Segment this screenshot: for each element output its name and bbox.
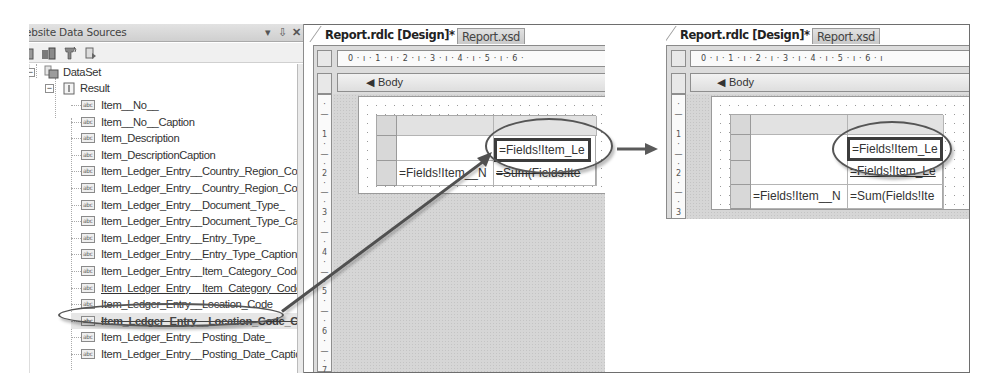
- ruler-tick: ·: [318, 259, 331, 267]
- tablix-cell[interactable]: =Sum(Fields!Ite: [848, 185, 944, 209]
- tree-line: [71, 188, 81, 189]
- row-handle[interactable]: [731, 185, 751, 209]
- tree-field-item[interactable]: abc Item_Ledger_Entry__Posting_Date_Capt…: [71, 346, 304, 362]
- tree-field-item[interactable]: abc Item__No__Caption: [71, 114, 304, 130]
- tab-report-xsd[interactable]: Report.xsd: [457, 28, 525, 44]
- tablix-cell[interactable]: [397, 116, 494, 136]
- row-handle[interactable]: [377, 116, 397, 136]
- text-field-icon: abc: [81, 216, 95, 226]
- text-field-icon: abc: [81, 133, 95, 143]
- ruler-tick: —: [672, 189, 685, 197]
- body-section-header[interactable]: ◀ Body: [690, 73, 969, 92]
- ruler-tick: 3: [318, 209, 331, 217]
- ruler-tick: ·: [318, 338, 331, 346]
- tree-field-item[interactable]: abc Item_Description: [71, 130, 304, 146]
- ruler-tick: —: [318, 189, 331, 197]
- tree-line: [36, 64, 37, 78]
- close-icon[interactable]: ✕: [289, 25, 303, 40]
- ruler-tick: 7: [318, 367, 331, 372]
- tree-line: [71, 138, 81, 139]
- tree-node-label: Result: [80, 80, 110, 96]
- auto-hide-pin-icon[interactable]: ⇩: [275, 25, 289, 40]
- ruler-tick: ·: [672, 141, 685, 149]
- tree-field-item[interactable]: abc Item_Ledger_Entry__Country_Region_Co: [71, 180, 304, 196]
- text-field-icon: abc: [81, 249, 95, 259]
- configure-dataset-icon[interactable]: [63, 46, 77, 60]
- vertical-ruler: · — 1 · — · 2 · — · 3: [671, 94, 686, 219]
- window-position-dropdown-icon[interactable]: ▾: [261, 25, 275, 40]
- highlight-ellipse-field: [58, 303, 284, 327]
- tree-field-item[interactable]: abc Item__No__: [71, 97, 304, 113]
- dataset-collapse-toggle[interactable]: −: [29, 68, 35, 77]
- ruler-corner: [671, 73, 686, 94]
- ruler-tick: ·: [672, 199, 685, 207]
- text-field-icon: abc: [81, 332, 95, 342]
- tree-field-item[interactable]: abc Item_Ledger_Entry__Country_Region_Co: [71, 163, 304, 179]
- result-collapse-toggle[interactable]: −: [45, 84, 54, 93]
- body-label: Body: [378, 74, 403, 91]
- ruler-tick: 3: [672, 209, 685, 217]
- tree-field-item[interactable]: abc Item_Ledger_Entry__Entry_Type_Captio…: [71, 246, 304, 262]
- tab-report-xsd[interactable]: Report.xsd: [812, 28, 880, 44]
- ruler-tick: —: [318, 111, 331, 119]
- tree-field-item[interactable]: abc Item_Ledger_Entry__Document_Type_Ca: [71, 213, 304, 229]
- ruler-corner: [317, 50, 332, 67]
- tree-field-item[interactable]: abc Item_Ledger_Entry__Posting_Date_: [71, 329, 304, 345]
- tree-line: [71, 254, 81, 255]
- tab-report-design[interactable]: Report.rdlc [Design]*: [321, 27, 459, 43]
- field-label: Item__No__Caption: [101, 114, 195, 130]
- ruler-tick: ·: [318, 318, 331, 326]
- ruler-tick: 2: [672, 170, 685, 178]
- tree-field-item[interactable]: abc Item_Ledger_Entry__Document_Type_: [71, 197, 304, 213]
- tree-line: [71, 171, 81, 172]
- text-field-icon: abc: [81, 349, 95, 359]
- panel-splitter[interactable]: [297, 64, 303, 373]
- ruler-tick: ·: [318, 358, 331, 366]
- tree-line: [71, 354, 81, 355]
- edit-dataset-icon[interactable]: [41, 46, 55, 60]
- tree-line: [71, 221, 81, 222]
- row-handle[interactable]: [731, 161, 751, 185]
- row-handle[interactable]: [731, 115, 751, 135]
- report-designer-after: Report.rdlc [Design]* Report.xsd 0 · ı ·…: [666, 25, 969, 219]
- tab-report-design[interactable]: Report.rdlc [Design]*: [676, 27, 814, 43]
- tree-line: [71, 304, 81, 305]
- ruler-tick: 5: [318, 288, 331, 296]
- row-handle[interactable]: [377, 161, 397, 186]
- tablix-cell[interactable]: [751, 115, 848, 135]
- ruler-tick: ·: [672, 161, 685, 169]
- ruler-tick: —: [672, 151, 685, 159]
- ruler-tick: ·: [318, 199, 331, 207]
- tab-edge: [666, 26, 677, 42]
- tree-line: [71, 238, 81, 239]
- tree-field-item[interactable]: abc Item_Ledger_Entry__Item_Category_Cod…: [71, 280, 304, 296]
- text-field-icon: abc: [81, 117, 95, 127]
- tree-field-item[interactable]: abc Item_Ledger_Entry__Entry_Type_: [71, 230, 304, 246]
- tablix-cell[interactable]: =Fields!Item__N: [751, 185, 848, 209]
- tree-line: [71, 205, 81, 206]
- report-designer-before: Report.rdlc [Design]* Report.xsd 0 · ı ·…: [305, 25, 605, 372]
- tree-line: [71, 271, 81, 272]
- ruler-tick: 6: [318, 328, 331, 336]
- highlight-ellipse-cell-after: [832, 121, 952, 177]
- horizontal-ruler: 0 · ı · 1 · ı · 2 · ı · 3 · ı · 4 · ı · …: [337, 50, 605, 67]
- vertical-ruler: · — 1 · — · 2 · — · 3 · — · 4 · — · 5 · …: [317, 94, 332, 372]
- field-label: Item_Ledger_Entry__Document_Type_: [101, 197, 285, 213]
- body-section-header[interactable]: ◀ Body: [337, 73, 605, 92]
- text-field-icon: abc: [81, 266, 95, 276]
- dataset-icon: [44, 65, 60, 79]
- field-label: Item_Ledger_Entry__Entry_Type_Caption: [101, 246, 297, 262]
- panel-title: ebsite Data Sources: [29, 24, 127, 41]
- tree-field-item[interactable]: abc Item_DescriptionCaption: [71, 147, 304, 163]
- ruler-tick: ·: [672, 101, 685, 109]
- field-label: Item_Ledger_Entry__Document_Type_Ca: [101, 213, 298, 229]
- refresh-icon[interactable]: [84, 46, 98, 60]
- row-handle[interactable]: [731, 135, 751, 161]
- add-data-source-icon[interactable]: [29, 46, 37, 60]
- ruler-tick: ·: [318, 141, 331, 149]
- text-field-icon: abc: [81, 183, 95, 193]
- row-handle[interactable]: [377, 136, 397, 161]
- tree-field-item[interactable]: abc Item_Ledger_Entry__Item_Category_Cod…: [71, 263, 304, 279]
- highlight-ellipse-cell: [485, 118, 613, 174]
- data-sources-title-bar: ebsite Data Sources ▾ ⇩ ✕: [29, 24, 304, 42]
